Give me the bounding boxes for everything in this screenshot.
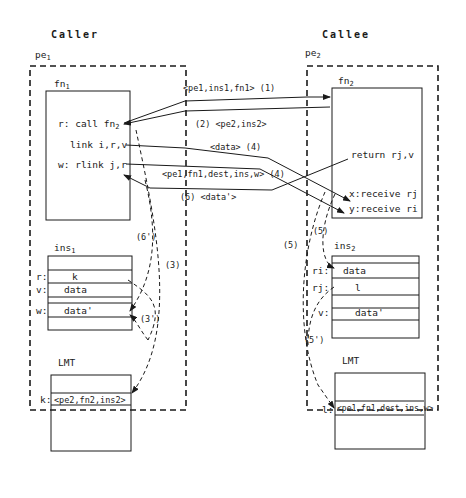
fn1-box xyxy=(46,91,130,220)
fn1-label: fn1 xyxy=(54,78,70,91)
callee-title: Callee xyxy=(322,29,370,40)
caller-lmt-entry: <pe2,fn2,ins2> xyxy=(54,395,126,405)
ins2-val-ri: data xyxy=(343,265,366,276)
ins1-key-w: w: xyxy=(36,305,47,316)
step-5p-label: (5') xyxy=(304,335,324,345)
local-arrows-callee xyxy=(303,192,335,408)
pe2-boundary xyxy=(307,66,438,410)
ins1-label: ins1 xyxy=(54,242,75,255)
step-3p-label: (3') xyxy=(140,314,160,324)
step-6p-label: (6') xyxy=(136,232,156,242)
ins1-val-r: k xyxy=(72,271,78,282)
arrow-step-6p xyxy=(130,180,153,311)
msg-4b-label: <pe1,fn1,dest,ins,w> (4) xyxy=(162,169,285,179)
pe1-label: pe1 xyxy=(35,49,51,62)
callee-lmt-key: l: xyxy=(322,404,333,415)
arrow-step-5 xyxy=(303,192,334,408)
ins1-key-r: r: xyxy=(36,271,47,282)
fn2-line-return: return rj,v xyxy=(351,149,414,160)
ins2-val-v: data' xyxy=(355,307,384,318)
fn2-line-receive-x: x:receive rj xyxy=(349,188,418,199)
arrow-step-3 xyxy=(132,130,160,393)
ins2-label: ins2 xyxy=(334,240,355,253)
local-arrows-caller xyxy=(128,130,160,393)
step-3-label: (3) xyxy=(165,260,180,270)
fn1-line-rlink: w: rlink j,r xyxy=(58,159,127,170)
msg-4a-label: <data> (4) xyxy=(210,142,261,152)
caller-title: Caller xyxy=(51,29,99,40)
msg-2-label: (2) <pe2,ins2> xyxy=(195,119,267,129)
step-5a-label: (5) xyxy=(283,240,298,250)
caller-lmt-label: LMT xyxy=(58,357,75,368)
step-5b-label: (5) xyxy=(313,226,328,236)
ins1-val-v: data xyxy=(64,284,87,295)
msg-1-label: <pe1,ins1,fn1> (1) xyxy=(183,83,275,93)
fn2-line-receive-y: y:receive ri xyxy=(349,203,418,214)
fn1-line-link: link i,r,v xyxy=(70,139,127,150)
diagram-canvas: Caller Callee pe1 pe2 fn1 r: call fn2 li… xyxy=(0,0,466,498)
ins2-key-v: v: xyxy=(318,307,329,318)
msg-6-label: (6) <data'> xyxy=(180,192,236,202)
message-arrows xyxy=(124,97,350,213)
ins1-val-w: data' xyxy=(64,305,93,316)
pe2-label: pe2 xyxy=(305,47,321,60)
ins2-key-ri: ri: xyxy=(312,265,329,276)
ins1-key-v: v: xyxy=(36,284,47,295)
callee-lmt-entry: <pe1,fn1,dest,ins,w> xyxy=(337,404,434,413)
caller-lmt-table xyxy=(51,375,131,451)
fn1-line-call: r: call fn2 xyxy=(58,118,119,131)
caller-lmt-key: k: xyxy=(40,394,51,405)
ins1-table xyxy=(48,256,132,330)
ins2-key-rj: rj: xyxy=(312,282,329,293)
fn2-label: fn2 xyxy=(338,75,354,88)
ins2-val-rj: l xyxy=(355,282,361,293)
callee-lmt-label: LMT xyxy=(342,355,359,366)
